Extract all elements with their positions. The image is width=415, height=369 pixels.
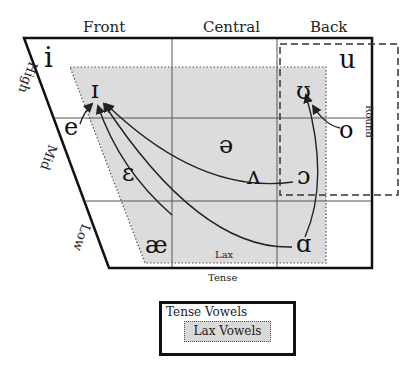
vowel-epsilon: ɛ — [122, 161, 134, 185]
lax-region-label: Lax — [215, 249, 233, 260]
round-label: Round — [364, 105, 375, 138]
vowel-o: o — [339, 118, 353, 142]
lax-region — [70, 67, 326, 263]
vowel-i: i — [44, 44, 53, 72]
vowel-e: e — [64, 115, 78, 139]
column-label-central: Central — [203, 18, 260, 36]
column-label-front: Front — [83, 18, 125, 36]
vowel-wedge: ʌ — [247, 164, 261, 188]
legend: Tense Vowels Lax Vowels — [159, 301, 296, 356]
vowel-ae: æ — [145, 233, 168, 257]
vowel-a: ɑ — [296, 232, 311, 256]
vowel-schwa: ə — [219, 133, 233, 157]
vowel-I: ɪ — [91, 78, 99, 102]
vowel-u: u — [339, 46, 356, 72]
legend-tense-label: Tense Vowels — [166, 305, 247, 319]
vowel-open-o: ɔ — [297, 164, 310, 188]
column-label-back: Back — [310, 18, 347, 36]
tense-region-label: Tense — [208, 272, 237, 283]
legend-lax-label: Lax Vowels — [184, 321, 271, 342]
vowel-U: ʊ — [296, 79, 311, 103]
